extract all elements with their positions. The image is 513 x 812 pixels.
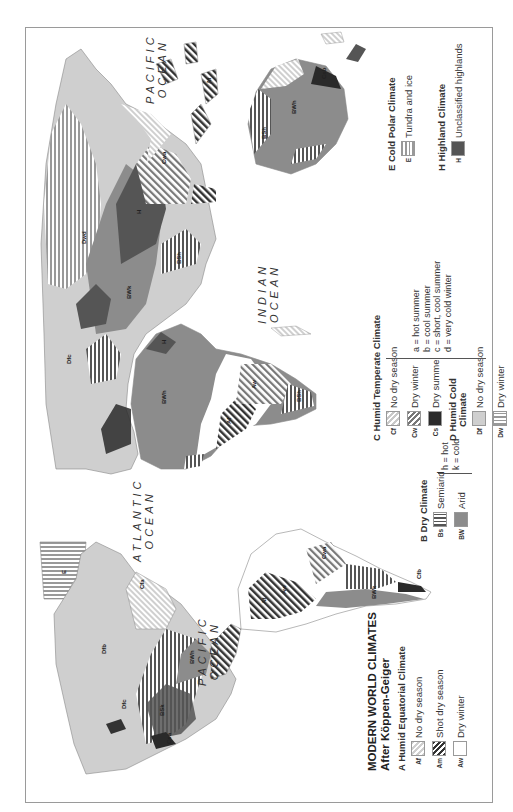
svg-text:Af: Af: [226, 417, 232, 424]
legend-group-a: A Humid Equatorial Climate Af No dry sea…: [396, 646, 473, 771]
swatch-solid-gray-icon: [454, 512, 468, 527]
legend-group-h: H Highland Climate H Unclassified highla…: [436, 43, 471, 171]
svg-text:BSk: BSk: [159, 704, 165, 716]
legend-heading-a: A Humid Equatorial Climate: [396, 646, 407, 771]
svg-text:Dfc: Dfc: [121, 699, 127, 709]
legend-item-df: Df No dry season: [471, 315, 487, 441]
svg-text:BSh: BSh: [261, 127, 267, 139]
svg-text:Af: Af: [261, 597, 267, 604]
legend-heading-e: E Cold Polar Climate: [386, 75, 397, 171]
svg-text:Aw: Aw: [281, 585, 287, 594]
svg-text:Csb: Csb: [321, 67, 327, 79]
ocean-label-atlantic: ATLANTICOCEAN: [131, 478, 155, 562]
map-title: MODERN WORLD CLIMATES: [366, 612, 379, 771]
legend-heading-c: C Humid Temperate Climate: [371, 315, 382, 441]
swatch-solid-light-gray-icon: [472, 411, 486, 426]
legend-item-am: Am Shot dry season: [431, 646, 447, 771]
legend-item-aw: Aw Dry winter: [452, 646, 468, 771]
legend-group-b: B Dry Climate Bs Semiarid BW Arid: [418, 472, 474, 543]
map-frame: Dfc Dfb Cfa BSk BWh Csa E Aw Af Cwa BWk …: [25, 27, 493, 803]
swatch-solid-dark-icon: [451, 141, 465, 156]
svg-text:Aw: Aw: [251, 380, 257, 389]
svg-text:BWh: BWh: [161, 390, 167, 404]
ocean-label-pacific-east: PACIFICOCEAN: [144, 33, 168, 104]
legend-item-dw: Dw Dry winter: [492, 315, 508, 441]
continent-australia: [248, 32, 366, 174]
svg-text:Csa: Csa: [166, 732, 172, 744]
svg-text:H: H: [136, 210, 142, 214]
continent-africa: [131, 324, 316, 469]
map-subtitle: After Köppen-Geiger: [379, 612, 392, 771]
svg-text:Dfb: Dfb: [101, 644, 107, 654]
swatch-vertical-stripes-light-icon: [401, 141, 415, 156]
legend-group-e: E Cold Polar Climate E Tundra and ice: [386, 75, 421, 171]
legend-item-cf: Cf No dry season: [385, 315, 401, 441]
continent-south-america: [238, 529, 431, 632]
swatch-diagonal-light-icon: [411, 741, 425, 756]
svg-text:BWh: BWh: [189, 650, 195, 664]
swatch-diagonal-light-icon: [386, 411, 400, 426]
legend-heading-b: B Dry Climate: [418, 472, 429, 543]
ocean-label-indian: INDIANOCEAN: [256, 263, 280, 324]
svg-text:BWk: BWk: [126, 285, 132, 299]
svg-text:Cwa: Cwa: [321, 546, 327, 559]
legend-notes-b: h = hot k = cold: [440, 439, 461, 470]
swatch-solid-black-icon: [428, 411, 442, 426]
swatch-diagonal-dark-icon: [432, 741, 446, 756]
legend-item-h: H Unclassified highlands: [450, 43, 466, 171]
legend-heading-h: H Highland Climate: [436, 43, 447, 171]
svg-text:BWk: BWk: [371, 585, 377, 599]
svg-text:BWh: BWh: [291, 100, 297, 114]
map-canvas-rotated: Dfc Dfb Cfa BSk BWh Csa E Aw Af Cwa BWk …: [26, 28, 494, 804]
svg-text:BSh: BSh: [176, 252, 182, 264]
brace-cd: [386, 358, 486, 359]
legend-item-e: E Tundra and ice: [400, 75, 416, 171]
brace-b: [438, 473, 472, 474]
svg-text:Dfc: Dfc: [66, 354, 72, 364]
svg-text:Dwd: Dwd: [81, 231, 87, 244]
swatch-blank-icon: [453, 741, 467, 756]
legend-item-bs: Bs Semiarid: [432, 472, 448, 543]
svg-text:Af: Af: [206, 77, 212, 84]
swatch-diagonal-medium-icon: [407, 411, 421, 426]
svg-text:BSh: BSh: [296, 390, 302, 402]
legend-item-af: Af No dry season: [410, 646, 426, 771]
legend-item-bw: BW Arid: [453, 472, 469, 543]
map-title-block: MODERN WORLD CLIMATES After Köppen-Geige…: [366, 612, 392, 771]
svg-text:Cfb: Cfb: [416, 569, 422, 579]
swatch-vertical-stripes-icon: [433, 512, 447, 527]
legend-notes-cd: a = hot summer b = cool summer c = short…: [411, 261, 453, 352]
svg-text:H: H: [161, 340, 167, 344]
svg-text:E: E: [61, 570, 67, 574]
swatch-horizontal-stripes-icon: [493, 411, 507, 426]
svg-text:Cfa: Cfa: [139, 579, 145, 589]
svg-text:Cwa: Cwa: [161, 151, 167, 164]
ocean-label-pacific-west: PACIFICOCEAN: [196, 615, 220, 686]
